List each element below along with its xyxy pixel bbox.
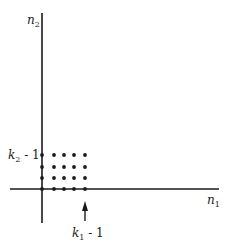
k1-minus-1-label: k1 - 1	[72, 226, 104, 242]
k2-minus-1-label: k2 - 1	[8, 148, 40, 164]
n2-axis-label: n2	[27, 13, 40, 29]
lattice-points	[40, 153, 87, 191]
lattice-diagram: n2 n1 k2 - 1 k1 - 1	[0, 0, 229, 250]
n1-axis-label: n1	[207, 193, 220, 209]
arrow-up-icon	[82, 201, 88, 221]
